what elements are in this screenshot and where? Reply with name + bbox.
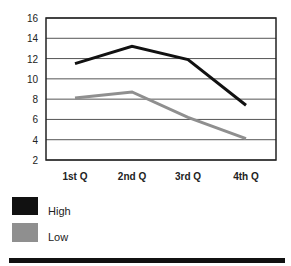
y-tick-label: 14 bbox=[27, 33, 39, 44]
legend: High Low bbox=[12, 197, 71, 243]
line-chart: 246810121416 1st Q2nd Q3rd Q4th Q High L… bbox=[0, 0, 291, 266]
y-tick-label: 16 bbox=[27, 13, 39, 24]
legend-swatch-low bbox=[12, 223, 38, 242]
x-tick-label: 2nd Q bbox=[118, 171, 147, 182]
y-axis-ticks: 246810121416 bbox=[27, 13, 39, 166]
y-tick-label: 2 bbox=[32, 155, 38, 166]
y-tick-label: 10 bbox=[27, 74, 39, 85]
x-tick-label: 4th Q bbox=[233, 171, 259, 182]
series-lines bbox=[75, 46, 246, 138]
y-tick-label: 4 bbox=[32, 135, 38, 146]
x-tick-label: 1st Q bbox=[62, 171, 87, 182]
y-tick-label: 12 bbox=[27, 54, 39, 65]
legend-label-high: High bbox=[48, 205, 71, 217]
plot-frame bbox=[46, 18, 276, 160]
y-tick-label: 8 bbox=[32, 94, 38, 105]
gridlines bbox=[46, 18, 276, 160]
x-tick-label: 3rd Q bbox=[175, 171, 201, 182]
legend-swatch-high bbox=[12, 197, 38, 215]
y-tick-label: 6 bbox=[32, 114, 38, 125]
bottom-divider-bar bbox=[9, 258, 285, 263]
legend-label-low: Low bbox=[48, 231, 68, 243]
x-axis-ticks: 1st Q2nd Q3rd Q4th Q bbox=[62, 171, 259, 182]
